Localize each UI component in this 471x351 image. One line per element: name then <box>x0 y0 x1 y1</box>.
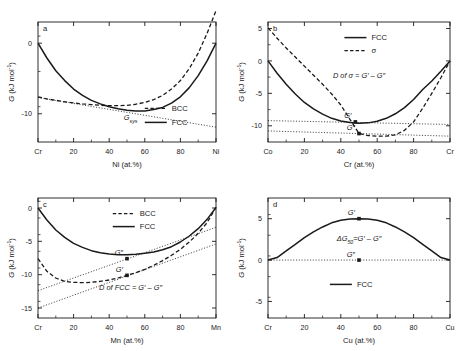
x-tick-label: 20 <box>300 147 308 156</box>
y-tick-label: 0 <box>258 256 262 265</box>
plot-annotation: Gsys <box>124 113 138 124</box>
x-axis-title: Mn (at.%) <box>111 336 144 345</box>
series-curve-- <box>268 28 450 136</box>
x-tick-label: 60 <box>373 323 381 332</box>
x-tick-label: 60 <box>141 323 149 332</box>
legend: FCC <box>330 280 373 289</box>
x-tick-label: 40 <box>105 323 113 332</box>
x-tick-label: 80 <box>410 147 418 156</box>
series-curve-bcc <box>38 11 216 106</box>
panel-label: a <box>43 24 48 33</box>
panel-label: b <box>273 24 277 33</box>
plot-frame <box>268 198 450 318</box>
data-point-label: G′ <box>116 265 124 274</box>
x-tick-label: Cr <box>264 323 272 332</box>
x-axis-title: Cr (at.%) <box>344 160 375 169</box>
y-axis-title-group: G (kJ mol-1) <box>6 238 16 278</box>
legend-label: FCC <box>357 280 373 289</box>
panel-d: dCr20406080Cu50-5Cu (at.%)G (kJ mol-1)G′… <box>234 186 462 348</box>
data-point-marker <box>125 257 129 261</box>
y-tick-label: 5 <box>258 24 262 33</box>
x-tick-label: Cr <box>446 147 454 156</box>
plot-annotation: D of σ = G′ – G″ <box>333 71 386 80</box>
y-axis-title-group: G (kJ mol-1) <box>236 62 246 102</box>
data-point-label: G″ <box>347 123 356 132</box>
x-tick-label: Mn <box>211 323 221 332</box>
x-tick-label: 40 <box>337 147 345 156</box>
y-tick-label: -15 <box>22 304 32 313</box>
panel-b: bCo20406080Cr50-5-10Cr (at.%)G (kJ mol-1… <box>234 10 462 172</box>
legend-label: BCC <box>172 104 189 113</box>
y-tick-label: -5 <box>256 297 262 306</box>
y-tick-label: 5 <box>258 214 262 223</box>
y-tick-label: 0 <box>258 57 262 66</box>
x-tick-label: 60 <box>141 147 149 156</box>
legend-label: FCC <box>140 222 156 231</box>
y-tick-label: -10 <box>22 270 32 279</box>
plot-annotation: ΔG50=G′ – G″ <box>336 234 382 245</box>
x-tick-label: 80 <box>176 323 184 332</box>
data-point-marker <box>357 217 361 221</box>
data-point-label: G′ <box>348 208 356 217</box>
figure-canvas: aCr20406080Ni0-10Ni (at.%)G (kJ mol-1)Gs… <box>0 0 471 351</box>
x-axis-title: Cu (at.%) <box>343 336 376 345</box>
data-point-label: G′ <box>344 111 352 120</box>
x-tick-label: Cr <box>34 147 42 156</box>
y-axis-title-group: G (kJ mol-1) <box>6 62 16 102</box>
panel-label: d <box>273 200 277 209</box>
panel-a: aCr20406080Ni0-10Ni (at.%)G (kJ mol-1)Gs… <box>4 10 228 172</box>
y-tick-label: 0 <box>28 204 32 213</box>
legend: BCCFCC <box>145 104 189 127</box>
series-curve-bcc <box>38 207 216 282</box>
legend: FCCσ <box>344 33 387 55</box>
x-tick-label: Co <box>263 147 272 156</box>
y-axis-title: G (kJ mol-1) <box>6 238 16 278</box>
y-axis-title: G (kJ mol-1) <box>6 62 16 102</box>
y-tick-label: -10 <box>252 121 262 130</box>
plot-frame <box>38 22 216 142</box>
x-tick-label: Cu <box>445 323 454 332</box>
series-curve-fcc <box>38 43 216 111</box>
x-tick-label: 80 <box>176 147 184 156</box>
y-axis-title: G (kJ mol-1) <box>236 62 246 102</box>
legend-label: σ <box>371 46 376 55</box>
x-tick-label: 60 <box>373 147 381 156</box>
x-tick-label: Cr <box>34 323 42 332</box>
y-tick-label: 0 <box>28 39 32 48</box>
data-point-marker <box>357 132 361 136</box>
legend: BCCFCC <box>113 209 157 231</box>
x-tick-label: 20 <box>70 147 78 156</box>
y-tick-label: -5 <box>256 89 262 98</box>
data-point-label: G″ <box>347 250 356 259</box>
x-tick-label: Ni <box>213 147 220 156</box>
x-tick-label: 40 <box>337 323 345 332</box>
y-tick-label: -10 <box>22 109 32 118</box>
data-point-marker <box>125 274 129 278</box>
x-tick-label: 20 <box>70 323 78 332</box>
y-axis-title-group: G (kJ mol-1) <box>236 238 246 278</box>
plot-annotation: D of FCC = G′ – G″ <box>99 283 162 292</box>
x-tick-label: 40 <box>105 147 113 156</box>
y-tick-label: -5 <box>26 237 32 246</box>
legend-label: FCC <box>172 118 188 127</box>
data-point-label: G″ <box>115 248 124 257</box>
panel-c: cCr20406080Mn0-5-10-15Mn (at.%)G (kJ mol… <box>4 186 228 348</box>
x-axis-title: Ni (at.%) <box>112 160 142 169</box>
x-tick-label: 20 <box>300 323 308 332</box>
y-axis-title: G (kJ mol-1) <box>236 238 246 278</box>
legend-label: FCC <box>371 33 387 42</box>
x-tick-label: 80 <box>410 323 418 332</box>
data-point-marker <box>357 258 361 262</box>
series-curve-fcc <box>38 207 216 254</box>
panel-label: c <box>43 200 47 209</box>
legend-label: BCC <box>140 209 157 218</box>
